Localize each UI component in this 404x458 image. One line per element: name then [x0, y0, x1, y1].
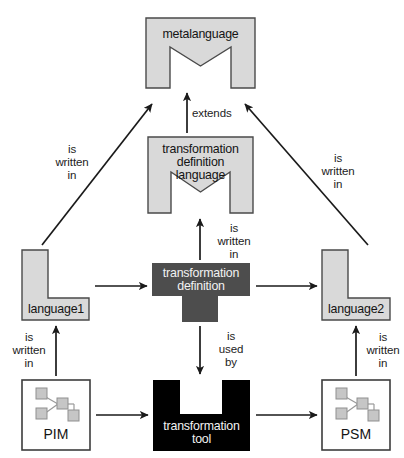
- edge-label-td-tool-line2: used: [210, 343, 252, 356]
- edge-label-language1-metalanguage-line3: in: [48, 169, 96, 182]
- edge-label-td-tdl-line1: is: [210, 222, 258, 235]
- edge-label-psm-language2-line1: is: [362, 331, 404, 344]
- psm-label: PSM: [322, 427, 390, 442]
- edge-label-language2-metalanguage-line2: written: [314, 165, 362, 178]
- transformation-definition-label-line2: definition: [152, 280, 250, 293]
- pim-label: PIM: [22, 427, 90, 442]
- edge-label-td-tool-line1: is: [210, 330, 252, 343]
- tdl-label-line3: language: [148, 169, 253, 182]
- edge-label-pim-language1-line3: in: [7, 357, 51, 370]
- edge-label-psm-language2-line2: written: [362, 344, 404, 357]
- diagram-vector-layer: [0, 0, 404, 458]
- edge-label-language1-metalanguage-line1: is: [48, 143, 96, 156]
- edge-label-extends: extends: [192, 107, 244, 120]
- edge-label-pim-language1-line2: written: [7, 344, 51, 357]
- edge-label-psm-language2-line3: in: [362, 357, 404, 370]
- language1-label: language1: [22, 303, 90, 316]
- diagram-canvas: metalanguage transformation definition l…: [0, 0, 404, 458]
- edge-label-language2-metalanguage-line3: in: [314, 178, 362, 191]
- language2-label: language2: [322, 303, 390, 316]
- edge-label-language2-metalanguage-line1: is: [314, 152, 362, 165]
- transformation-tool-label-line2: tool: [153, 433, 250, 446]
- edge-label-language1-metalanguage-line2: written: [48, 156, 96, 169]
- edge-label-td-tool-line3: by: [210, 356, 252, 369]
- metalanguage-label: metalanguage: [146, 28, 255, 41]
- edge-label-td-tdl-line3: in: [210, 248, 258, 261]
- edge-label-td-tdl-line2: written: [210, 235, 258, 248]
- edge-label-pim-language1-line1: is: [7, 331, 51, 344]
